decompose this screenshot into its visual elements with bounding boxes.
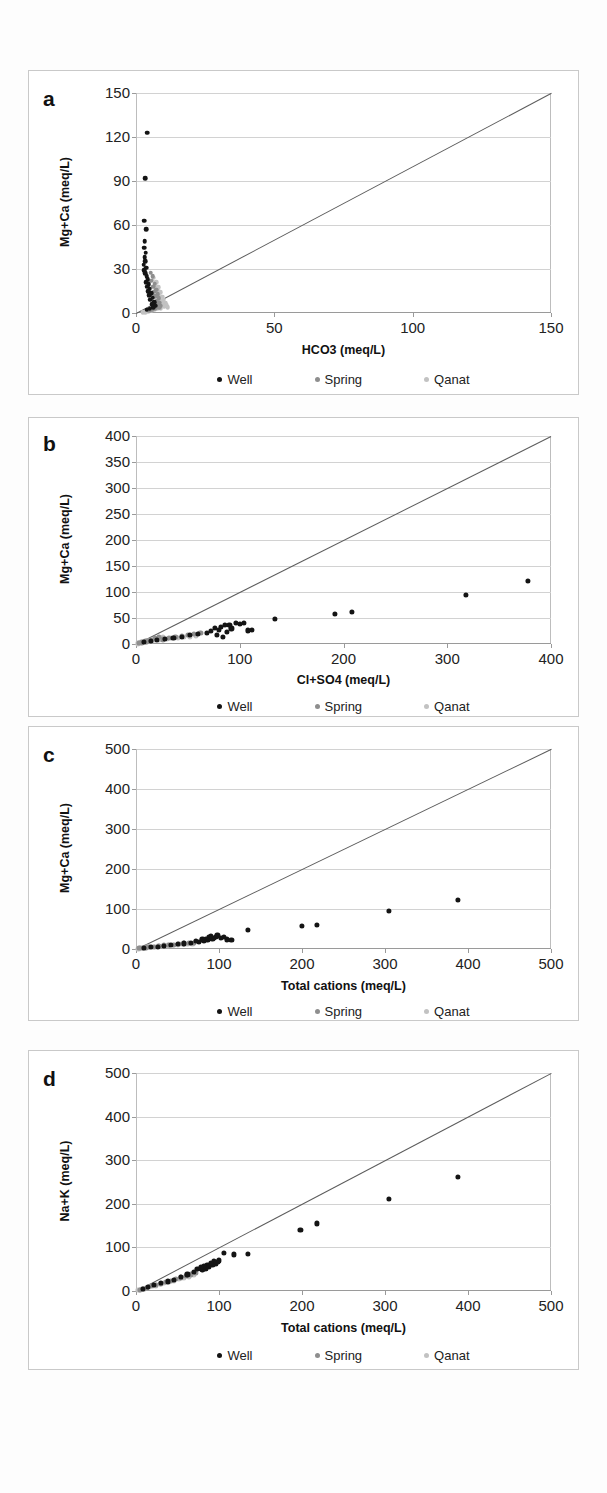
y-tick-label: 90 (113, 173, 130, 188)
legend-marker-spring-icon (315, 704, 320, 709)
legend-label: Spring (325, 1349, 363, 1362)
x-tick-mark (240, 644, 241, 648)
legend-entry-spring[interactable]: Spring (315, 700, 363, 713)
legend-label: Qanat (434, 700, 469, 713)
legend-label: Well (227, 1005, 252, 1018)
y-tick-label: 500 (105, 741, 130, 756)
legend-entry-well[interactable]: Well (217, 1349, 252, 1362)
y-tick-label: 400 (105, 781, 130, 796)
y-tick-label: 300 (105, 1152, 130, 1167)
data-point-well (245, 927, 250, 932)
y-tick-label: 60 (113, 217, 130, 232)
legend-marker-qanat-icon (424, 704, 429, 709)
y-tick-label: 150 (105, 85, 130, 100)
y-tick-label: 400 (105, 428, 130, 443)
legend-entry-well[interactable]: Well (217, 1005, 252, 1018)
legend-marker-spring-icon (315, 1009, 320, 1014)
y-axis-label-c: Mg+Ca (meq/L) (58, 773, 72, 923)
data-point-well (245, 628, 250, 633)
x-tick-mark (344, 644, 345, 648)
gridline-y (136, 566, 551, 567)
y-tick-label: 0 (122, 941, 130, 956)
y-tick-label: 100 (105, 901, 130, 916)
x-tick-mark (468, 949, 469, 953)
data-point-well (142, 245, 147, 250)
legend-entry-qanat[interactable]: Qanat (424, 1349, 469, 1362)
legend-entry-qanat[interactable]: Qanat (424, 700, 469, 713)
x-tick-mark (385, 949, 386, 953)
gridline-y (136, 1117, 551, 1118)
x-tick-mark (219, 949, 220, 953)
legend-b: WellSpringQanat (184, 700, 504, 713)
y-tick-label: 100 (105, 584, 130, 599)
legend-a: WellSpringQanat (184, 373, 504, 386)
legend-marker-spring-icon (315, 1353, 320, 1358)
y-axis-label-b: Mg+Ca (meq/L) (58, 464, 72, 614)
data-point-well (333, 611, 338, 616)
y-tick-label: 120 (105, 129, 130, 144)
x-axis-line (136, 1290, 551, 1291)
gridline-y (136, 592, 551, 593)
one-to-one-reference-line (136, 749, 551, 950)
x-axis-label-b: Cl+SO4 (meq/L) (194, 673, 494, 687)
panel-d: d Na+K (meq/L) 0100200300400500010020030… (28, 1050, 579, 1370)
plot-area-b: 0501001502002503003504000100200300400 (136, 436, 551, 644)
legend-label: Spring (325, 700, 363, 713)
data-point-well (231, 1252, 236, 1257)
legend-entry-qanat[interactable]: Qanat (424, 1005, 469, 1018)
y-tick-label: 300 (105, 821, 130, 836)
data-point-well (143, 176, 148, 181)
data-point-well (245, 1251, 250, 1256)
data-point-well (298, 1227, 303, 1232)
data-point-well (144, 227, 149, 232)
legend-d: WellSpringQanat (184, 1349, 504, 1362)
legend-entry-qanat[interactable]: Qanat (424, 373, 469, 386)
x-tick-mark (274, 313, 275, 317)
legend-entry-spring[interactable]: Spring (315, 1005, 363, 1018)
data-point-well (455, 1174, 460, 1179)
panel-b: b Mg+Ca (meq/L) 050100150200250300350400… (28, 417, 579, 717)
legend-entry-well[interactable]: Well (217, 373, 252, 386)
x-tick-label: 0 (132, 1298, 140, 1313)
data-point-well (314, 922, 319, 927)
data-point-well (221, 1250, 226, 1255)
data-point-qanat (165, 305, 170, 310)
y-axis-line (136, 93, 137, 313)
gridline-y (136, 749, 551, 750)
x-tick-mark (302, 1291, 303, 1295)
y-tick-label: 0 (122, 636, 130, 651)
plot-area-d: 01002003004005000100200300400500 (136, 1073, 551, 1291)
data-point-well (225, 629, 230, 634)
data-point-well (145, 130, 150, 135)
legend-entry-well[interactable]: Well (217, 700, 252, 713)
y-tick-label: 250 (105, 506, 130, 521)
x-tick-label: 500 (538, 1298, 563, 1313)
x-tick-mark (468, 1291, 469, 1295)
legend-label: Well (227, 373, 252, 386)
legend-label: Well (227, 1349, 252, 1362)
gridline-y (136, 869, 551, 870)
data-point-well (196, 631, 201, 636)
legend-entry-spring[interactable]: Spring (315, 1349, 363, 1362)
legend-marker-well-icon (217, 704, 222, 709)
panel-a: a Mg+Ca (meq/L) 0306090120150050100150 H… (28, 70, 579, 395)
gridline-y (136, 789, 551, 790)
gridline-y (136, 436, 551, 437)
y-tick-label: 200 (105, 861, 130, 876)
data-point-well (526, 578, 531, 583)
y-axis-line (136, 749, 137, 949)
y-tick-label: 100 (105, 1240, 130, 1255)
plot-area-a: 0306090120150050100150 (136, 93, 551, 313)
x-tick-mark (551, 313, 552, 317)
data-point-well (314, 1221, 319, 1226)
data-point-well (455, 898, 460, 903)
x-tick-label: 500 (538, 956, 563, 971)
x-tick-label: 150 (538, 320, 563, 335)
y-tick-label: 30 (113, 261, 130, 276)
legend-marker-well-icon (217, 1353, 222, 1358)
x-tick-label: 400 (455, 956, 480, 971)
gridline-y (136, 829, 551, 830)
legend-entry-spring[interactable]: Spring (315, 373, 363, 386)
y-tick-label: 400 (105, 1109, 130, 1124)
gridline-y (136, 909, 551, 910)
